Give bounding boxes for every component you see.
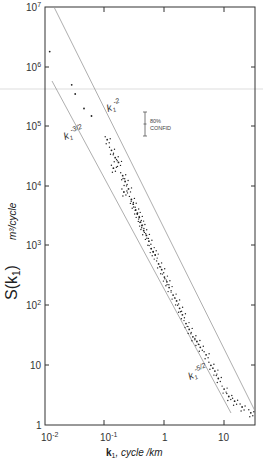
data-point bbox=[231, 395, 232, 396]
svg-text:103: 103 bbox=[26, 239, 41, 251]
data-point bbox=[157, 257, 158, 258]
data-point bbox=[217, 382, 218, 383]
data-point bbox=[208, 353, 209, 354]
data-point bbox=[146, 229, 147, 230]
data-point bbox=[123, 191, 125, 193]
data-point bbox=[124, 178, 125, 179]
data-point bbox=[244, 405, 245, 406]
data-point bbox=[216, 375, 217, 376]
svg-text:107: 107 bbox=[26, 1, 41, 13]
data-point bbox=[203, 351, 204, 352]
data-point bbox=[171, 286, 172, 287]
svg-text:10-1: 10-1 bbox=[100, 431, 117, 443]
data-point bbox=[74, 93, 76, 95]
data-point bbox=[222, 392, 223, 393]
data-point bbox=[213, 374, 214, 375]
data-point bbox=[168, 284, 169, 285]
data-point bbox=[221, 377, 222, 378]
data-point bbox=[169, 280, 170, 281]
data-point bbox=[175, 304, 176, 305]
svg-text:10: 10 bbox=[218, 432, 230, 443]
data-point bbox=[165, 285, 166, 286]
data-point bbox=[115, 171, 116, 172]
data-point bbox=[205, 354, 207, 356]
data-point bbox=[243, 409, 244, 410]
data-point bbox=[175, 293, 176, 294]
data-point bbox=[91, 115, 93, 117]
k-minus-3-2-label: k1-3/2 bbox=[61, 123, 85, 143]
data-point bbox=[174, 297, 175, 298]
data-point bbox=[184, 327, 185, 328]
data-point bbox=[146, 235, 148, 237]
data-point bbox=[168, 287, 170, 289]
data-point bbox=[192, 328, 193, 329]
data-point bbox=[181, 318, 182, 319]
data-point bbox=[225, 391, 226, 392]
data-point bbox=[149, 234, 150, 235]
data-point bbox=[105, 136, 106, 137]
data-point bbox=[126, 190, 127, 191]
data-point bbox=[140, 229, 141, 230]
data-point bbox=[154, 247, 155, 248]
data-point bbox=[217, 369, 218, 370]
data-point bbox=[121, 161, 122, 162]
data-point bbox=[135, 210, 136, 211]
data-point bbox=[126, 184, 127, 185]
data-point bbox=[49, 51, 51, 53]
data-point bbox=[180, 311, 181, 312]
svg-text:104: 104 bbox=[26, 180, 41, 192]
data-point bbox=[234, 400, 236, 402]
data-point bbox=[188, 333, 189, 334]
data-point bbox=[214, 370, 216, 372]
data-point bbox=[137, 214, 138, 215]
data-point bbox=[195, 335, 196, 336]
data-point bbox=[226, 387, 227, 388]
data-point bbox=[163, 272, 164, 273]
svg-text:m³/cycle: m³/cycle bbox=[7, 202, 18, 240]
data-point bbox=[194, 339, 195, 340]
data-point bbox=[133, 206, 134, 207]
data-point bbox=[120, 172, 121, 173]
data-point bbox=[125, 174, 126, 175]
data-point bbox=[153, 251, 154, 252]
data-point bbox=[132, 208, 133, 209]
data-point bbox=[131, 187, 132, 188]
x-axis-ticks bbox=[104, 7, 224, 425]
data-point bbox=[181, 311, 182, 312]
data-point bbox=[210, 364, 212, 366]
data-point bbox=[138, 221, 139, 222]
data-point bbox=[188, 322, 189, 323]
data-point bbox=[125, 194, 126, 195]
y-axis-ticks bbox=[45, 67, 255, 365]
data-point bbox=[170, 290, 171, 291]
data-point bbox=[117, 166, 118, 167]
svg-text:1: 1 bbox=[162, 432, 168, 443]
data-point bbox=[123, 185, 124, 186]
confidence-error-bar bbox=[143, 112, 147, 136]
data-point bbox=[191, 332, 192, 333]
data-point bbox=[230, 399, 231, 400]
data-point bbox=[228, 396, 230, 398]
data-point bbox=[136, 217, 137, 218]
data-point bbox=[202, 350, 203, 351]
data-point bbox=[177, 305, 178, 306]
svg-text:102: 102 bbox=[26, 299, 41, 311]
data-point bbox=[127, 180, 128, 181]
x-axis-tick-labels: 10-2 10-1 1 10 bbox=[41, 431, 230, 443]
data-point bbox=[111, 165, 112, 166]
data-point bbox=[179, 299, 180, 300]
data-point bbox=[185, 313, 186, 314]
data-point bbox=[150, 244, 151, 245]
data-point bbox=[148, 240, 150, 242]
data-point bbox=[114, 149, 115, 150]
data-point bbox=[106, 143, 107, 144]
data-point bbox=[253, 411, 254, 412]
data-point bbox=[141, 225, 143, 227]
data-point bbox=[118, 156, 119, 157]
data-point bbox=[183, 320, 184, 321]
data-point bbox=[161, 262, 162, 263]
data-point bbox=[249, 416, 250, 417]
data-point bbox=[208, 362, 209, 363]
data-point bbox=[167, 275, 168, 276]
data-point bbox=[157, 267, 158, 268]
